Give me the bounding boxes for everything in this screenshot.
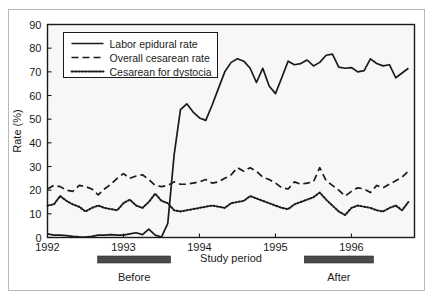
after-period-label: After	[327, 271, 351, 283]
y-tick-label: 50	[29, 113, 41, 125]
y-tick-label: 30	[29, 161, 41, 173]
figure-root: 0102030405060708090 19921993199419951996…	[0, 0, 433, 301]
line-chart: 0102030405060708090 19921993199419951996…	[0, 0, 433, 301]
x-tick-label: 1994	[187, 241, 211, 253]
before-period-label: Before	[118, 271, 150, 283]
y-tick-label: 60	[29, 90, 41, 102]
y-axis-label: Rate (%)	[11, 109, 23, 152]
y-tick-label: 40	[29, 137, 41, 149]
y-tick-label: 10	[29, 208, 41, 220]
legend-label-3: Cesarean for dystocia	[110, 66, 212, 78]
y-tick-label: 80	[29, 42, 41, 54]
after-period-bar	[304, 256, 373, 263]
legend-label-1: Labor epidural rate	[110, 38, 198, 50]
legend-label-2: Overall cesarean rate	[110, 52, 211, 64]
x-tick-label: 1992	[35, 241, 59, 253]
before-period-bar	[98, 256, 171, 263]
y-tick-label: 20	[29, 184, 41, 196]
y-tick-label: 90	[29, 19, 41, 31]
x-axis-label: Study period	[200, 252, 262, 264]
x-tick-label: 1993	[111, 241, 135, 253]
y-tick-label: 70	[29, 66, 41, 78]
chart-legend: Labor epidural rateOverall cesarean rate…	[64, 33, 218, 78]
x-tick-label: 1995	[263, 241, 287, 253]
x-tick-label: 1996	[339, 241, 363, 253]
